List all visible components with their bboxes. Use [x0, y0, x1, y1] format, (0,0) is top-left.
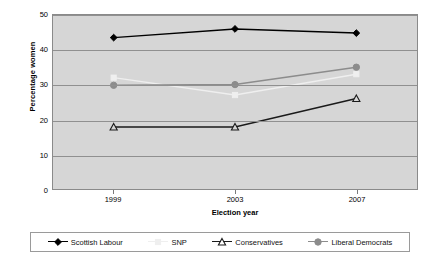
x-tick-mark-1999 [113, 190, 114, 194]
x-tick-mark-2003 [235, 190, 236, 194]
y-tick-label-0: 0 [14, 186, 48, 195]
data-point [111, 75, 116, 80]
legend-label: Scottish Labour [71, 238, 123, 247]
legend-key-icon [148, 237, 168, 247]
series-lines-layer [53, 15, 417, 189]
gridline-50 [53, 15, 417, 16]
gridline-40 [53, 50, 417, 51]
chart-legend: Scottish LabourSNPConservativesLiberal D… [30, 232, 410, 252]
plot-area [52, 14, 418, 190]
y-tick-label-40: 40 [14, 45, 48, 54]
legend-key-icon [308, 237, 328, 247]
gridline-30 [53, 85, 417, 86]
legend-item-liberal-democrats[interactable]: Liberal Democrats [308, 237, 392, 247]
data-point [353, 95, 360, 102]
legend-key-icon [48, 237, 68, 247]
x-tick-mark-2007 [357, 190, 358, 194]
legend-item-conservatives[interactable]: Conservatives [212, 237, 283, 247]
y-tick-label-30: 30 [14, 80, 48, 89]
legend-item-snp[interactable]: SNP [148, 237, 186, 247]
legend-item-scottish-labour[interactable]: Scottish Labour [48, 237, 123, 247]
y-tick-label-50: 50 [14, 10, 48, 19]
data-point [353, 30, 360, 37]
y-axis-tick-labels: 01020304050 [8, 0, 48, 261]
legend-label: SNP [171, 238, 186, 247]
x-tick-label-1999: 1999 [83, 195, 143, 204]
legend-key-icon [212, 237, 232, 247]
line-chart: Percentage women 01020304050 19992003200… [0, 0, 436, 261]
y-tick-label-20: 20 [14, 115, 48, 124]
y-tick-label-10: 10 [14, 150, 48, 159]
series-scottish-labour [110, 26, 359, 41]
gridline-10 [53, 156, 417, 157]
x-tick-label-2007: 2007 [327, 195, 387, 204]
legend-label: Conservatives [235, 238, 283, 247]
data-point [353, 64, 359, 70]
data-point [110, 34, 117, 41]
legend-label: Liberal Democrats [331, 238, 392, 247]
x-tick-label-2003: 2003 [205, 195, 265, 204]
x-axis-title: Election year [52, 208, 418, 217]
data-point [232, 92, 237, 97]
gridline-20 [53, 121, 417, 122]
data-point [354, 72, 359, 77]
data-point [232, 26, 239, 33]
series-conservatives [110, 95, 360, 130]
